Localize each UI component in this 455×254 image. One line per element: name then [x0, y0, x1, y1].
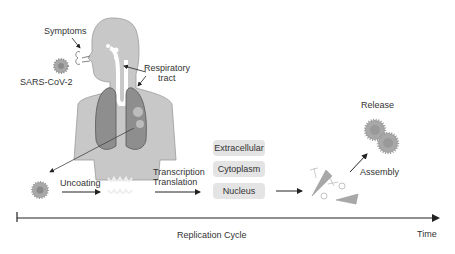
compartment-extracellular: Extracellular [213, 140, 265, 156]
diagram-graphics [0, 0, 455, 254]
compartment-nucleus: Nucleus [213, 183, 265, 199]
assembly-label: Assembly [360, 167, 399, 177]
released-virions-icon [365, 120, 398, 153]
symptoms-label: Symptoms [44, 26, 87, 36]
translation-label: Translation [153, 177, 197, 187]
human-body-illustration [74, 18, 176, 180]
timeline-axis [17, 212, 440, 222]
tract-label: tract [158, 73, 176, 83]
uncoating-label: Uncoating [60, 178, 101, 188]
virus-particle-icon [32, 182, 48, 198]
sars-cov-2-label: SARS-CoV-2 [20, 77, 73, 87]
respiratory-label: Respiratory [144, 63, 190, 73]
compartment-cytoplasm: Cytoplasm [213, 161, 265, 177]
release-label: Release [361, 100, 394, 110]
viral-proteins-icon [310, 168, 358, 204]
time-label: Time [417, 229, 437, 239]
sars-cov-2-virion-icon [54, 59, 68, 73]
transcription-label: Transcription [153, 167, 205, 177]
replication-cycle-label: Replication Cycle [177, 230, 247, 240]
